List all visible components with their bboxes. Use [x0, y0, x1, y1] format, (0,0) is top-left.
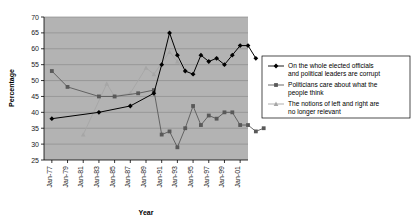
- x-axis-title: Year: [139, 209, 154, 216]
- legend-label-line2: people think: [288, 89, 324, 97]
- data-point-square: [191, 104, 195, 108]
- plot-area-background: [44, 17, 248, 160]
- chart-svg: 25303540455055606570 Jan-77Jan-79Jan-81J…: [0, 0, 415, 221]
- legend-label-line1: Politicians care about what the: [288, 81, 378, 88]
- x-tick-label: Jan-93: [171, 166, 178, 188]
- legend-label-line1: On the whole elected officials: [288, 62, 374, 69]
- chart-legend: On the whole elected officialsand politi…: [262, 56, 410, 118]
- x-tick-label: Jan-99: [218, 166, 225, 188]
- y-tick-label: 35: [31, 125, 39, 132]
- y-tick-label: 65: [31, 29, 39, 36]
- data-point-square: [66, 85, 70, 89]
- y-tick-label: 40: [31, 109, 39, 116]
- data-point-square: [238, 123, 242, 127]
- legend-label-line2: no longer relevant: [288, 108, 341, 116]
- x-tick-label: Jan-85: [109, 166, 116, 188]
- x-tick-label: Jan-87: [124, 166, 131, 188]
- x-tick-label: Jan-79: [62, 166, 69, 188]
- y-tick-label: 45: [31, 93, 39, 100]
- y-tick-label: 70: [31, 14, 39, 21]
- data-point-square: [168, 130, 172, 134]
- data-point-square: [113, 95, 117, 99]
- data-point-square: [199, 123, 203, 127]
- x-tick-label: Jan-01: [234, 166, 241, 188]
- x-tick-label: Jan-91: [156, 166, 163, 188]
- data-point-square: [262, 126, 266, 130]
- y-tick-label: 50: [31, 77, 39, 84]
- x-tick-label: Jan-89: [140, 166, 147, 188]
- y-tick-label: 55: [31, 61, 39, 68]
- data-point-square: [223, 110, 227, 114]
- legend-label-line2: and political leaders are corrupt: [288, 70, 380, 78]
- data-point-square: [230, 110, 234, 114]
- data-point-square: [274, 83, 278, 87]
- data-point-square: [207, 114, 211, 118]
- data-point-square: [175, 145, 179, 149]
- data-point-square: [97, 95, 101, 99]
- y-tick-label: 25: [31, 157, 39, 164]
- x-tick-label: Jan-77: [46, 166, 53, 188]
- data-point-square: [50, 69, 54, 73]
- data-point-square: [183, 126, 187, 130]
- x-tick-label: Jan-81: [77, 166, 84, 188]
- y-tick-label: 30: [31, 141, 39, 148]
- data-point-square: [254, 130, 258, 134]
- chart-container: 25303540455055606570 Jan-77Jan-79Jan-81J…: [0, 0, 415, 221]
- data-point-square: [160, 133, 164, 137]
- x-tick-label: Jan-97: [203, 166, 210, 188]
- legend-label-line1: The notions of left and right are: [288, 100, 380, 108]
- y-axis-title: Percentage: [8, 69, 16, 107]
- data-point-square: [215, 117, 219, 121]
- data-point-square: [246, 123, 250, 127]
- x-tick-label: Jan-95: [187, 166, 194, 188]
- x-tick-label: Jan-83: [93, 166, 100, 188]
- y-tick-label: 60: [31, 45, 39, 52]
- data-point-square: [136, 91, 140, 95]
